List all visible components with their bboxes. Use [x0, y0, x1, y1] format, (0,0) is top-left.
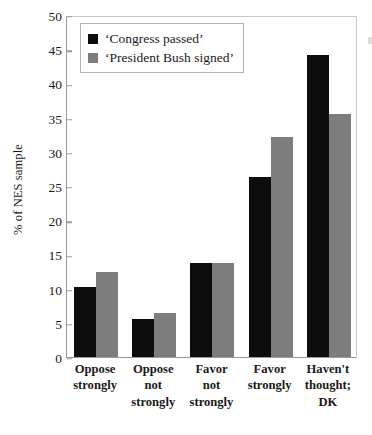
bar: [154, 313, 176, 357]
y-axis-tick: 15: [49, 250, 68, 264]
x-axis-tick-label-line: strongly: [66, 377, 124, 393]
y-axis-tick-label: 45: [49, 44, 68, 58]
bar: [132, 319, 154, 357]
y-axis-tick-label: 30: [49, 147, 68, 161]
bar: [271, 137, 293, 357]
plot-area: 05101520253035404550 ‘Congress passed’ ‘…: [66, 16, 357, 358]
x-axis-tick-label: Favornotstrongly: [182, 361, 240, 410]
y-axis-tick-label: 35: [49, 113, 68, 127]
x-axis-tick-label-line: thought;: [299, 377, 357, 393]
legend-swatch-icon-series-0: [88, 34, 98, 44]
legend-label-series-0: ‘Congress passed’: [105, 32, 204, 46]
bar: [74, 287, 96, 357]
bar: [249, 177, 271, 357]
y-axis-tick: 20: [49, 215, 68, 229]
x-axis-tick-labels: OpposestronglyOpposenotstronglyFavornots…: [66, 361, 357, 425]
x-axis-tick-label: Opposestrongly: [66, 361, 124, 394]
x-axis-tick-label: Favorstrongly: [241, 361, 299, 394]
y-axis-tick: 40: [49, 79, 68, 93]
x-axis-tick-label-line: Oppose: [124, 361, 182, 377]
y-axis-tick-label: 40: [49, 79, 68, 93]
bar: [307, 55, 329, 357]
bar: [329, 114, 351, 357]
y-axis-tick-label: 25: [49, 181, 68, 195]
y-axis-tick: 5: [55, 318, 67, 332]
bar-group: [242, 17, 300, 357]
y-axis-tick: 10: [49, 284, 68, 298]
x-axis-tick-label-line: not: [124, 377, 182, 393]
y-axis-tick: 30: [49, 147, 68, 161]
x-axis-tick-label: Haven'tthought;DK: [299, 361, 357, 410]
x-axis-tick-label-line: strongly: [124, 394, 182, 410]
x-axis-tick-label-line: Favor: [182, 361, 240, 377]
legend: ‘Congress passed’ ‘President Bush signed…: [80, 23, 244, 73]
legend-item-congress-passed: ‘Congress passed’: [88, 29, 234, 48]
y-axis-tick-label: 5: [55, 318, 67, 332]
legend-swatch-icon-series-1: [88, 53, 98, 63]
x-axis-tick-label: Opposenotstrongly: [124, 361, 182, 410]
x-axis-tick-label-line: not: [182, 377, 240, 393]
y-axis-title: % of NES sample: [11, 120, 26, 260]
bar: [190, 263, 212, 357]
y-axis-tick-label: 20: [49, 215, 68, 229]
y-axis-tick-label: 10: [49, 284, 68, 298]
bar: [212, 263, 234, 357]
y-axis-tick-mark: [67, 358, 72, 359]
y-axis-tick: 25: [49, 181, 68, 195]
x-axis-tick-label-line: Haven't: [299, 361, 357, 377]
y-axis-tick-label: 50: [49, 10, 68, 24]
y-axis-tick: 45: [49, 44, 68, 58]
x-axis-tick-label-line: DK: [299, 394, 357, 410]
x-axis-tick-label-line: Favor: [241, 361, 299, 377]
legend-label-series-1: ‘President Bush signed’: [105, 51, 234, 65]
x-axis-tick-label-line: Oppose: [66, 361, 124, 377]
y-axis-tick: 35: [49, 113, 68, 127]
bar-group: [300, 17, 358, 357]
scan-artifact: [368, 37, 372, 44]
legend-item-president-bush-signed: ‘President Bush signed’: [88, 48, 234, 67]
x-axis-tick-label-line: strongly: [182, 394, 240, 410]
x-axis-tick-label-line: strongly: [241, 377, 299, 393]
y-axis-tick: 50: [49, 10, 68, 24]
bar: [96, 272, 118, 358]
y-axis-tick-label: 15: [49, 250, 68, 264]
